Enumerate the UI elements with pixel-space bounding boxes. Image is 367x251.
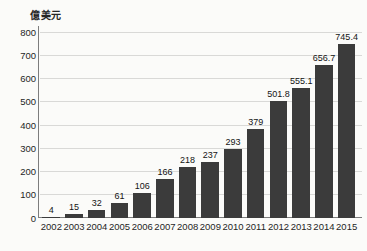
x-tick-label: 2008	[176, 221, 199, 232]
bar-slot[interactable]: 293	[222, 32, 245, 218]
y-axis-ticks: 0100200300400500600700800	[0, 32, 36, 218]
bar-slot[interactable]: 501.8	[267, 32, 290, 218]
x-tick-label: 2004	[85, 221, 108, 232]
bar-slot[interactable]: 4	[40, 32, 63, 218]
x-tick-label: 2005	[108, 221, 131, 232]
bars-group: 4153261106166218237293379501.8555.1656.7…	[40, 32, 358, 218]
y-tick-label: 0	[2, 212, 36, 223]
bar-value-label: 656.7	[313, 53, 336, 63]
bar-value-label: 15	[69, 202, 79, 212]
bar[interactable]	[315, 65, 333, 218]
y-tick-label: 100	[2, 189, 36, 200]
x-tick-label: 2009	[199, 221, 222, 232]
y-tick-label: 200	[2, 166, 36, 177]
bar-slot[interactable]: 106	[131, 32, 154, 218]
y-axis-unit-label: 億美元	[30, 7, 62, 22]
bar-value-label: 32	[92, 198, 102, 208]
bar[interactable]	[133, 193, 151, 218]
bar[interactable]	[292, 88, 310, 217]
bar-slot[interactable]: 166	[154, 32, 177, 218]
y-tick-label: 800	[2, 26, 36, 37]
x-tick-label: 2010	[222, 221, 245, 232]
x-tick-label: 2006	[131, 221, 154, 232]
x-tick-label: 2003	[63, 221, 86, 232]
bar[interactable]	[88, 210, 106, 217]
x-tick-label: 2011	[244, 221, 267, 232]
bar-chart: 億美元 0100200300400500600700800 4153261106…	[0, 0, 367, 251]
bar-slot[interactable]: 61	[108, 32, 131, 218]
bar-slot[interactable]: 32	[85, 32, 108, 218]
x-tick-label: 2007	[154, 221, 177, 232]
x-tick-label: 2013	[290, 221, 313, 232]
y-tick-label: 300	[2, 142, 36, 153]
bar-value-label: 106	[135, 181, 150, 191]
bar[interactable]	[42, 217, 60, 218]
y-tick-label: 700	[2, 49, 36, 60]
bar-value-label: 237	[203, 150, 218, 160]
bar-value-label: 555.1	[290, 76, 313, 86]
bar-slot[interactable]: 15	[63, 32, 86, 218]
bar[interactable]	[338, 44, 356, 217]
x-tick-label: 2012	[267, 221, 290, 232]
x-tick-label: 2014	[313, 221, 336, 232]
bar-value-label: 4	[49, 205, 54, 215]
bar-value-label: 379	[248, 117, 263, 127]
bar[interactable]	[156, 179, 174, 218]
bar-slot[interactable]: 218	[176, 32, 199, 218]
bar[interactable]	[65, 214, 83, 217]
bar-value-label: 293	[226, 137, 241, 147]
x-axis-labels: 2002200320042005200620072008200920102011…	[40, 221, 358, 237]
bar[interactable]	[247, 129, 265, 217]
bar-value-label: 218	[180, 155, 195, 165]
bar[interactable]	[179, 167, 197, 218]
y-tick-label: 400	[2, 119, 36, 130]
bar-slot[interactable]: 237	[199, 32, 222, 218]
y-tick-label: 500	[2, 96, 36, 107]
bar-slot[interactable]: 745.4	[335, 32, 358, 218]
bar-value-label: 166	[157, 167, 172, 177]
bar[interactable]	[111, 203, 129, 217]
bar-value-label: 745.4	[335, 32, 358, 42]
bar-slot[interactable]: 379	[244, 32, 267, 218]
y-axis-line	[38, 26, 39, 218]
y-tick-label: 600	[2, 73, 36, 84]
x-tick-label: 2015	[335, 221, 358, 232]
bar-slot[interactable]: 656.7	[313, 32, 336, 218]
bar[interactable]	[201, 162, 219, 217]
bar-value-label: 501.8	[267, 89, 290, 99]
bar[interactable]	[224, 149, 242, 217]
bar-slot[interactable]: 555.1	[290, 32, 313, 218]
x-tick-label: 2002	[40, 221, 63, 232]
bar[interactable]	[270, 101, 288, 218]
bar-value-label: 61	[114, 191, 124, 201]
